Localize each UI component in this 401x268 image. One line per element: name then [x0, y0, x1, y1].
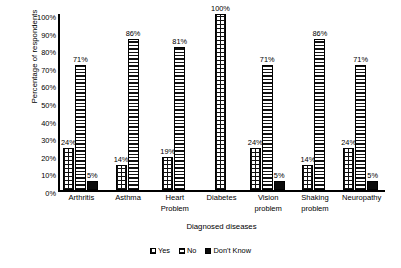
bar-group: 14%86%: [292, 14, 339, 190]
x-axis-title: Diagnosed diseases: [58, 222, 385, 231]
bar-group: 24%71%5%: [245, 14, 292, 190]
y-axis-tick-label: 10%: [26, 172, 56, 180]
chart-legend: YesNoDon't Know: [0, 247, 401, 255]
bar-value-label: 5%: [265, 172, 294, 180]
bar[interactable]: [87, 181, 98, 190]
bar[interactable]: [250, 148, 261, 190]
bar-group: 24%71%5%: [58, 14, 105, 190]
x-axis-category-label-line: Arthritis: [58, 193, 105, 204]
y-axis-tick-labels: 100%90%80%70%60%50%40%30%20%10%0%: [26, 10, 56, 194]
bar[interactable]: [302, 165, 313, 190]
legend-swatch-icon: [205, 248, 211, 254]
bar[interactable]: [63, 148, 74, 190]
x-axis-category-label: Neuropathy: [338, 193, 385, 204]
legend-label: Yes: [158, 247, 170, 255]
bar-group: 100%: [198, 14, 245, 190]
y-axis-tick-label: 90%: [26, 32, 56, 40]
plot-area: 24%71%5%14%86%19%81%100%24%71%5%14%86%24…: [58, 14, 385, 190]
bar-value-label: 81%: [165, 38, 194, 46]
y-axis-tick-label: 20%: [26, 155, 56, 163]
bar[interactable]: [128, 39, 139, 190]
x-axis-category-label-line: Vision: [245, 193, 292, 204]
legend-item[interactable]: Don't Know: [205, 247, 251, 255]
x-axis-category-label: Asthma: [105, 193, 152, 204]
y-axis-tick-label: 40%: [26, 120, 56, 128]
legend-label: Don't Know: [213, 247, 251, 255]
bar[interactable]: [162, 157, 173, 190]
x-axis-category-label-line: problem: [245, 204, 292, 215]
x-axis-category-label-line: Diabetes: [198, 193, 245, 204]
bar[interactable]: [274, 181, 285, 190]
bar[interactable]: [116, 165, 127, 190]
x-axis-category-label-line: Shaking: [292, 193, 339, 204]
x-axis-category-label: Visionproblem: [245, 193, 292, 214]
bar-value-label: 5%: [78, 172, 107, 180]
bar-value-label: 100%: [206, 5, 235, 13]
x-axis-category-label-line: problem: [292, 204, 339, 215]
y-axis-tick-label: 50%: [26, 102, 56, 110]
legend-swatch-icon: [150, 248, 156, 254]
x-axis-line: [58, 190, 385, 192]
y-axis-tick-label: 100%: [26, 14, 56, 22]
legend-item[interactable]: No: [179, 247, 196, 255]
bar-value-label: 86%: [305, 30, 334, 38]
bar-group: 24%71%5%: [338, 14, 385, 190]
bar-value-label: 71%: [346, 56, 375, 64]
legend-swatch-icon: [179, 248, 185, 254]
x-axis-category-label-line: Problem: [151, 204, 198, 215]
x-axis-category-label: HeartProblem: [151, 193, 198, 214]
bar[interactable]: [343, 148, 354, 190]
legend-label: No: [187, 247, 196, 255]
y-axis-tick-label: 80%: [26, 49, 56, 57]
y-axis-tick-label: 0%: [26, 190, 56, 198]
legend-item[interactable]: Yes: [150, 247, 170, 255]
bar-group: 19%81%: [151, 14, 198, 190]
x-axis-category-label: Shakingproblem: [292, 193, 339, 214]
bar[interactable]: [367, 181, 378, 190]
y-axis-tick-label: 70%: [26, 67, 56, 75]
x-axis-category-label-line: Heart: [151, 193, 198, 204]
bar[interactable]: [314, 39, 325, 190]
bar-chart: Percentage of respondents 100%90%80%70%6…: [0, 0, 401, 268]
bar[interactable]: [174, 47, 185, 190]
bar-value-label: 5%: [358, 172, 387, 180]
bar-value-label: 71%: [253, 56, 282, 64]
y-axis-tick-label: 30%: [26, 137, 56, 145]
x-axis-category-label: Arthritis: [58, 193, 105, 204]
x-axis-category-labels: ArthritisAsthmaHeartProblemDiabetesVisio…: [58, 193, 385, 223]
x-axis-category-label-line: Neuropathy: [338, 193, 385, 204]
x-axis-category-label-line: Asthma: [105, 193, 152, 204]
bar[interactable]: [215, 14, 226, 190]
bar-value-label: 71%: [66, 56, 95, 64]
bar-value-label: 86%: [119, 30, 148, 38]
x-axis-category-label: Diabetes: [198, 193, 245, 204]
y-axis-tick-label: 60%: [26, 84, 56, 92]
bar-group: 14%86%: [105, 14, 152, 190]
